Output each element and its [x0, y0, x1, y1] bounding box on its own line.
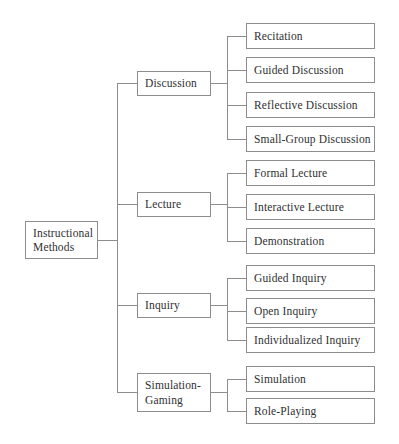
node-guided-inquiry: Guided Inquiry [246, 265, 375, 291]
node-recitation: Recitation [246, 23, 375, 49]
node-inquiry: Inquiry [137, 293, 211, 318]
node-discussion: Discussion [137, 71, 211, 96]
node-small-group-discussion: Small-Group Discussion [246, 126, 375, 152]
node-simulation-gaming: Simulation- Gaming [137, 373, 211, 412]
node-open-inquiry: Open Inquiry [246, 298, 375, 324]
node-lecture: Lecture [137, 192, 211, 217]
node-reflective-discussion: Reflective Discussion [246, 92, 375, 118]
node-role-playing: Role-Playing [246, 398, 375, 424]
node-individualized-inquiry: Individualized Inquiry [246, 327, 375, 353]
node-simulation: Simulation [246, 366, 375, 392]
node-formal-lecture: Formal Lecture [246, 160, 375, 186]
node-guided-discussion: Guided Discussion [246, 57, 375, 83]
node-instructional-methods: Instructional Methods [25, 221, 98, 259]
node-interactive-lecture: Interactive Lecture [246, 194, 375, 220]
instructional-methods-tree-diagram: Instructional Methods Discussion Recitat… [0, 0, 399, 444]
node-demonstration: Demonstration [246, 228, 375, 254]
